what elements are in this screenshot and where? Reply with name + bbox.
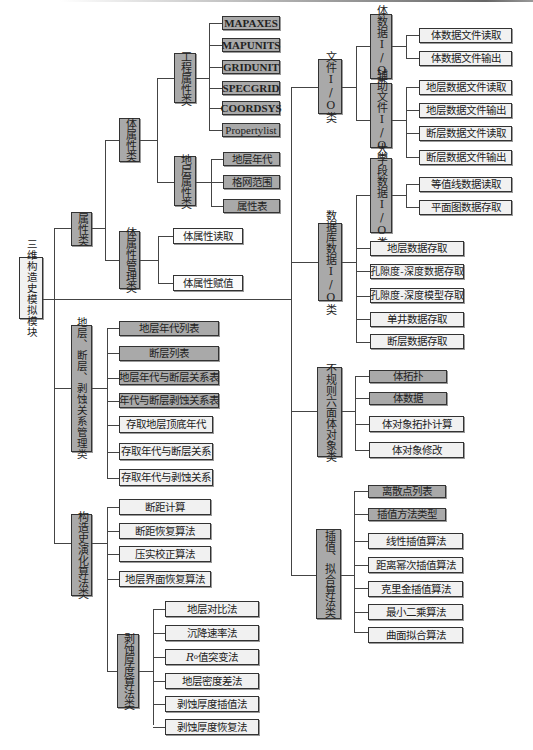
connector [158,283,173,284]
connector [153,609,154,725]
attr-class: 属性类 [71,212,92,246]
item-erosion-interpolation: 剥蚀厚度插值法 [165,696,259,712]
item-linear-interp: 线性插值算法 [368,533,463,549]
connector [342,87,356,88]
item-strata-density-diff: 地层密度差法 [165,673,259,689]
connector [157,78,158,182]
connector [158,236,159,283]
relation-mgmt-class: 地层、断层、剥蚀关系管理类 [71,325,92,452]
item-coordsys: COORDSYS [222,101,280,115]
connector [406,157,419,158]
connector [355,450,369,451]
db-data-io-class: 数据库数据I/O类 [318,223,342,301]
item-mapunits: MAPUNITS [222,38,280,52]
connector [43,299,291,300]
connector [54,543,71,544]
erosion-thickness-algo-class: 剥蚀厚度算法类 [117,634,139,708]
item-fault-list: 断层列表 [119,346,219,361]
connector [406,58,419,59]
connector [107,579,119,580]
connector [356,46,357,120]
connector [355,424,369,425]
item-plan-map-access: 平面图数据存取 [419,200,512,215]
item-fault-file-output: 断层数据文件输出 [419,150,512,165]
item-strata-age-list: 地层年代列表 [119,321,219,336]
item-body-topology: 体拓扑 [369,370,447,383]
item-strata-comparison: 地层对比法 [165,601,259,617]
connector [107,378,119,379]
connector [291,262,318,263]
item-access-age-erosion: 存取年代与剥蚀关系 [119,469,213,486]
item-surface-fitting: 曲面拟合算法 [368,627,463,643]
evolution-algo-class: 构造史演化算法类 [71,514,92,596]
connector [354,565,368,566]
connector [341,575,354,576]
item-body-topology-calc: 体对象拓扑计算 [369,416,464,432]
connector [355,398,369,399]
aux-file-io-class: 辅助文件I/O类 [370,83,392,148]
ro-label: 值突变法 [198,651,238,663]
connector [153,609,165,610]
page-top-rule [60,0,533,2]
item-single-well-data: 单井数据存取 [370,312,464,327]
connector [291,575,318,576]
root-module: 三维构造史模拟模块 [19,257,43,319]
connector [354,588,368,589]
connector [356,319,370,320]
connector [209,23,210,130]
connector [342,262,356,263]
item-fault-distance-calc: 断距计算 [119,499,211,515]
item-access-age-fault: 存取年代与断层关系 [119,443,213,460]
ro-symbol: R [186,651,194,663]
connector [406,133,419,134]
connector [196,78,209,79]
item-porosity-depth-model: 孔隙度-深度模型存取 [370,288,464,303]
item-age-fault-erosion-table: 年代与断层剥蚀关系表 [119,393,219,408]
connector [157,182,174,183]
connector [105,140,106,260]
connector [211,206,223,207]
connector [140,140,157,141]
item-porosity-depth-data: 孔隙度-深度数据存取 [370,264,464,279]
item-subsidence-rate: 沉降速率法 [165,625,259,641]
connector [107,328,119,329]
item-strata-age: 地层年代 [223,152,280,166]
item-kriging-interp: 克里金插值算法 [368,581,463,597]
strata-attr-class: 地层属性类 [174,156,196,206]
item-discrete-point-list: 离散点列表 [368,485,446,498]
connector [209,45,222,46]
item-gridunit: GRIDUNIT [222,60,280,74]
body-attr-class: 体属性类 [119,118,140,162]
item-age-fault-table: 地层年代与断层关系表 [119,370,219,385]
item-interp-method-type: 插值方法类型 [368,508,446,521]
item-erosion-restore: 剥蚀厚度恢复法 [165,719,259,735]
item-grid-range: 格网范围 [223,175,280,189]
connector [158,236,173,237]
connector [92,543,107,544]
item-body-file-read: 体数据文件读取 [419,28,512,43]
connector [140,260,158,261]
connector [153,633,165,634]
connector [153,704,165,705]
connector [153,727,165,728]
connector [291,411,318,412]
right-trunk [291,87,292,576]
connector [211,182,223,183]
connector [392,46,406,47]
connector [139,671,153,672]
connector [356,46,370,47]
connector [107,507,119,508]
irregular-hexahedron-class: 不规则六面体对象类 [317,367,342,457]
connector [107,452,119,453]
interp-fit-algo-class: 插值、拟合算法类 [316,529,341,619]
item-strata-file-read: 地层数据文件读取 [419,80,512,95]
connector [153,681,165,682]
item-body-attr-read: 体属性读取 [173,228,243,244]
connector [406,110,419,111]
connector [92,228,105,229]
item-specgrid: SPECGRID [222,81,280,95]
connector [354,612,368,613]
item-contour-read: 等值线数据读取 [419,177,512,192]
item-least-squares: 最小二乘算法 [368,604,463,620]
item-mapaxes: MAPAXES [222,16,280,30]
